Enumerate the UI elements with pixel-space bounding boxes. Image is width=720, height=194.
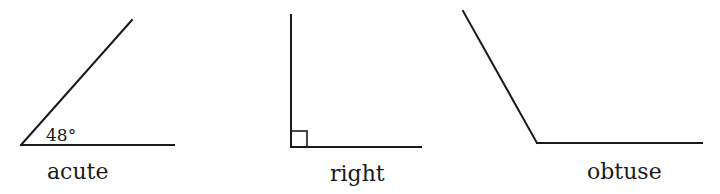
right-angle: right [291, 15, 421, 186]
acute-angle-measure: 48° [46, 125, 76, 145]
acute-slanted-ray [21, 20, 132, 145]
angle-types-diagram: 48° acute right obtuse [0, 0, 720, 194]
right-angle-marker [291, 131, 307, 147]
acute-angle: 48° acute [21, 20, 174, 184]
right-label: right [330, 161, 385, 186]
obtuse-angle: obtuse [463, 11, 702, 184]
obtuse-slanted-ray [463, 11, 537, 143]
obtuse-label: obtuse [587, 159, 662, 184]
acute-label: acute [47, 159, 108, 184]
